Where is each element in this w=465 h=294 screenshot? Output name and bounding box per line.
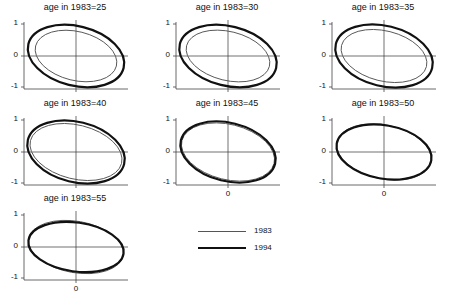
- legend-label-1994: 1994: [254, 243, 272, 252]
- legend-label-1983: 1983: [254, 226, 272, 235]
- chart-panel: age in 1983=4510-10: [152, 96, 302, 192]
- chart-panel: age in 1983=3510-1: [308, 0, 458, 96]
- thin-line-swatch: [198, 231, 246, 232]
- chart-panel: age in 1983=2510-1: [0, 0, 150, 96]
- plot-area: [0, 0, 150, 100]
- thick-line-swatch: [198, 247, 246, 249]
- plot-area: [0, 191, 150, 291]
- chart-panel: age in 1983=4010-1: [0, 96, 150, 192]
- plot-area: [308, 0, 458, 100]
- plot-area: [0, 96, 150, 196]
- chart-panel: age in 1983=3010-1: [152, 0, 302, 96]
- plot-area: [152, 96, 302, 196]
- plot-area: [308, 96, 458, 196]
- chart-panel: age in 1983=5010-10: [308, 96, 458, 192]
- plot-area: [152, 0, 302, 100]
- legend-entry-1994: 1994: [198, 243, 318, 255]
- legend-entry-1983: 1983: [198, 226, 318, 238]
- chart-legend: 1983 1994: [198, 226, 318, 266]
- chart-panel: age in 1983=5510-10: [0, 191, 150, 287]
